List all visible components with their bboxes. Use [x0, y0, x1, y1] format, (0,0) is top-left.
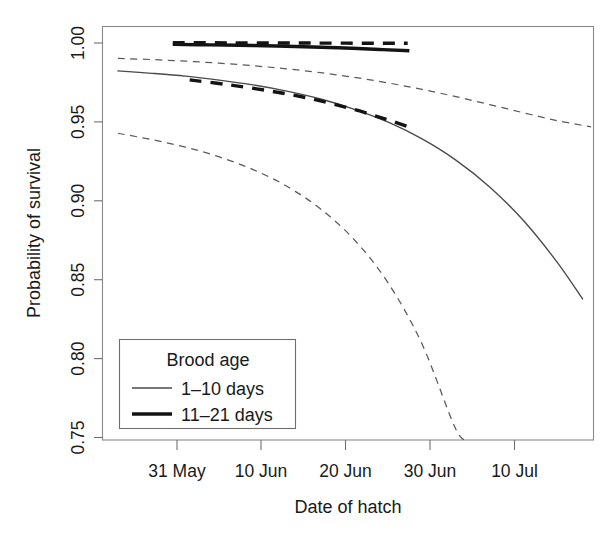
- chart-canvas: 1.00 0.95 0.90 0.85 0.80 0.75 Probabilit…: [0, 0, 615, 541]
- survival-probability-chart: 1.00 0.95 0.90 0.85 0.80 0.75 Probabilit…: [0, 0, 615, 541]
- x-tick-label: 10 Jun: [235, 461, 288, 481]
- y-axis-title: Probability of survival: [24, 148, 44, 318]
- chart-background: [0, 0, 615, 541]
- y-tick-label: 0.75: [68, 420, 88, 454]
- legend-label-1-10-days: 1–10 days: [181, 379, 264, 399]
- x-tick-label: 31 May: [148, 461, 206, 481]
- x-tick-label: 10 Jul: [491, 461, 538, 481]
- legend-title: Brood age: [166, 350, 249, 370]
- x-axis-title: Date of hatch: [294, 497, 401, 517]
- legend: Brood age 1–10 days 11–21 days: [120, 340, 296, 429]
- y-tick-label: 0.80: [68, 341, 88, 375]
- x-tick-label: 20 Jun: [319, 461, 372, 481]
- legend-label-11-21-days: 11–21 days: [181, 405, 273, 425]
- x-tick-label: 30 Jun: [404, 461, 457, 481]
- y-tick-label: 0.95: [68, 105, 88, 139]
- y-tick-label: 0.85: [68, 263, 88, 297]
- y-tick-label: 0.90: [68, 184, 88, 218]
- y-tick-label: 1.00: [68, 26, 88, 60]
